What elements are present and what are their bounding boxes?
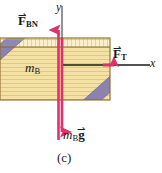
- vector-arrow-glyph: ⇀: [18, 11, 26, 21]
- label-force-tension-subscript: T: [121, 52, 127, 62]
- block-body: [0, 30, 144, 112]
- label-force-tension: ⇀FT: [113, 47, 127, 62]
- label-force-normal: ⇀FBN: [18, 14, 38, 29]
- label-force-normal-subscript: BN: [26, 19, 38, 29]
- figure-caption: (c): [57, 151, 71, 164]
- vector-arrow-glyph: ⇀: [113, 44, 121, 54]
- axis-label-y: y: [56, 1, 61, 13]
- label-weight: mB⇀g: [63, 128, 85, 143]
- free-body-diagram-figure: ⇀FBN ⇀FT mB mB⇀g y x (c): [0, 0, 162, 173]
- label-block-mass-subscript: B: [34, 66, 40, 76]
- label-block-mass: mB: [25, 61, 40, 76]
- vector-arrow-glyph: ⇀: [77, 125, 85, 135]
- label-block-mass-symbol: m: [25, 60, 34, 75]
- axis-label-x: x: [150, 57, 155, 69]
- label-weight-symbol: m: [63, 127, 72, 142]
